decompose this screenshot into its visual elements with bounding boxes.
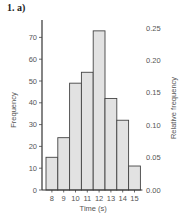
y-tick-label: 40 bbox=[29, 98, 37, 107]
y-tick-label: 0 bbox=[33, 186, 37, 195]
histogram-bar bbox=[105, 98, 117, 190]
x-tick-label: 13 bbox=[107, 194, 115, 203]
histogram-bar bbox=[129, 166, 141, 190]
y2-axis-title: Relative frequency bbox=[169, 77, 178, 139]
histogram-bar bbox=[58, 138, 70, 190]
y-tick-label: 70 bbox=[29, 33, 37, 42]
histogram-bar bbox=[93, 31, 105, 190]
y2-tick-label: 0.00 bbox=[146, 186, 161, 195]
x-tick-label: 14 bbox=[119, 194, 127, 203]
y2-tick-label: 0.25 bbox=[146, 24, 161, 33]
y2-tick-label: 0.20 bbox=[146, 56, 161, 65]
x-tick-label: 12 bbox=[95, 194, 103, 203]
x-tick-label: 10 bbox=[71, 194, 79, 203]
x-tick-label: 11 bbox=[83, 194, 91, 203]
y2-tick-label: 0.05 bbox=[146, 153, 161, 162]
y2-tick-label: 0.10 bbox=[146, 121, 161, 130]
y-tick-label: 10 bbox=[29, 164, 37, 173]
histogram-bar bbox=[81, 72, 93, 190]
histogram-bar bbox=[117, 120, 129, 190]
x-tick-label: 9 bbox=[62, 194, 66, 203]
x-tick-label: 15 bbox=[130, 194, 138, 203]
y-tick-label: 30 bbox=[29, 120, 37, 129]
x-axis-title: Time (s) bbox=[80, 204, 108, 213]
histogram-chart: 891011121314150102030405060700.000.050.1… bbox=[0, 0, 186, 222]
y2-tick-label: 0.15 bbox=[146, 88, 161, 97]
y-tick-label: 60 bbox=[29, 55, 37, 64]
histogram-bar bbox=[46, 157, 58, 190]
x-tick-label: 8 bbox=[50, 194, 54, 203]
y-tick-label: 20 bbox=[29, 142, 37, 151]
histogram-bar bbox=[70, 83, 82, 190]
y-axis-title: Frequency bbox=[9, 92, 18, 128]
y-tick-label: 50 bbox=[29, 77, 37, 86]
